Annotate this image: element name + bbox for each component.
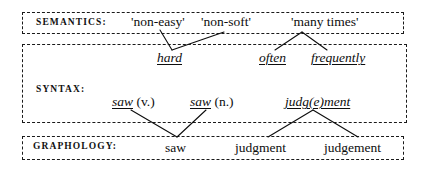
stratum-label-semantics: SEMANTICS: — [36, 17, 107, 27]
diagram-canvas: SEMANTICS: SYNTAX: GRAPHOLOGY: 'non-easy… — [0, 0, 429, 172]
syntax-item-saw-noun: saw (n.) — [190, 95, 234, 109]
stratum-label-syntax: SYNTAX: — [36, 84, 85, 94]
syntax-item-label: saw — [112, 94, 133, 109]
syntax-item-label: judg(e)ment — [285, 94, 350, 109]
graphology-item-judgment: judgment — [235, 141, 286, 155]
syntax-item-label: often — [259, 50, 286, 65]
stratum-label-graphology: GRAPHOLOGY: — [33, 141, 117, 151]
semantics-item-label: 'many times' — [291, 14, 358, 29]
syntax-item-judgement: judg(e)ment — [285, 95, 350, 109]
syntax-item-label: frequently — [311, 50, 365, 65]
graphology-item-label: saw — [165, 140, 186, 155]
graphology-item-judgement: judgement — [324, 141, 381, 155]
syntax-item-saw-verb: saw (v.) — [112, 95, 155, 109]
graphology-item-saw: saw — [165, 141, 186, 155]
semantics-item-label: 'non-easy' — [131, 14, 185, 29]
syntax-item-often: often — [259, 51, 286, 65]
semantics-item-non-soft: 'non-soft' — [201, 15, 251, 29]
semantics-item-label: 'non-soft' — [201, 14, 251, 29]
syntax-item-label: hard — [157, 50, 182, 65]
syntax-item-suffix: (n.) — [211, 94, 234, 109]
syntax-item-label: saw — [190, 94, 211, 109]
syntax-item-frequently: frequently — [311, 51, 365, 65]
semantics-item-many-times: 'many times' — [291, 15, 358, 29]
syntax-item-hard: hard — [157, 51, 182, 65]
graphology-item-label: judgement — [324, 140, 381, 155]
semantics-item-non-easy: 'non-easy' — [131, 15, 185, 29]
syntax-item-suffix: (v.) — [133, 94, 155, 109]
graphology-item-label: judgment — [235, 140, 286, 155]
